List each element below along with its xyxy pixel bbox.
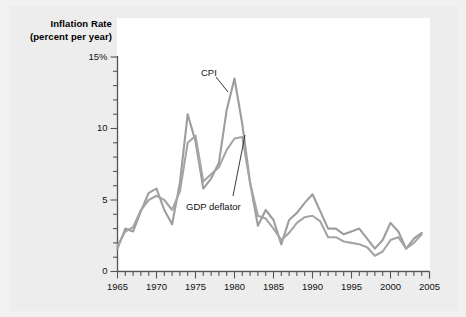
x-tick-label: 2005 xyxy=(410,281,450,292)
chart-figure: Inflation Rate (percent per year) CPI GD… xyxy=(0,0,466,317)
leader-line-cpi xyxy=(216,77,228,92)
x-tick-label: 1980 xyxy=(215,281,255,292)
x-tick-label: 2000 xyxy=(371,281,411,292)
x-tick-label: 1985 xyxy=(254,281,294,292)
x-tick-label: 1990 xyxy=(293,281,333,292)
y-tick-label: 10 xyxy=(72,122,108,133)
y-tick-label: 0 xyxy=(72,265,108,276)
x-tick-label: 1970 xyxy=(137,281,177,292)
data-series xyxy=(118,78,422,255)
chart-plot xyxy=(0,0,466,317)
x-tick-label: 1965 xyxy=(98,281,138,292)
axis-ticks xyxy=(111,57,430,279)
y-tick-label: 15% xyxy=(72,51,108,62)
x-tick-label: 1975 xyxy=(176,281,216,292)
series-line-gdp-deflator xyxy=(118,136,422,256)
y-tick-label: 5 xyxy=(72,194,108,205)
x-tick-label: 1995 xyxy=(332,281,372,292)
leader-line-gdp-deflator xyxy=(233,135,245,196)
